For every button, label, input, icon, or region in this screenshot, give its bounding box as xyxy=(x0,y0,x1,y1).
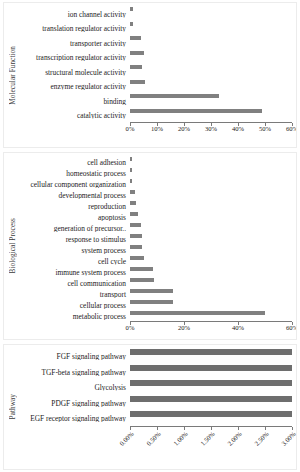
y-axis-title-label-biological-process: Biological Process xyxy=(9,218,17,274)
bar xyxy=(130,65,142,69)
bar xyxy=(130,349,292,355)
category-label: cell cycle xyxy=(20,258,130,265)
bar xyxy=(130,36,141,40)
tick-label: 10% xyxy=(151,125,163,132)
tick-label: 50% xyxy=(259,125,271,132)
tick-mark xyxy=(292,427,293,430)
bar-track xyxy=(130,278,292,289)
tick-mark xyxy=(238,427,239,430)
bar-track xyxy=(130,168,292,179)
tick-mark xyxy=(157,427,158,430)
tick-label: 40% xyxy=(232,125,244,132)
bar xyxy=(130,300,173,304)
bar-row: Glycolysis xyxy=(20,380,292,396)
bar-row: catalytic activity xyxy=(20,109,292,124)
bar-track xyxy=(130,36,292,51)
category-label: reproduction xyxy=(20,203,130,210)
category-label: cell adhesion xyxy=(20,159,130,166)
y-axis-title-pathway: Pathway xyxy=(6,345,20,469)
bar xyxy=(130,22,133,26)
tick-track: 0%10%20%30%40%50%60% xyxy=(130,123,292,135)
bar-track xyxy=(130,201,292,212)
bar xyxy=(130,109,262,113)
y-axis-title-biological-process: Biological Process xyxy=(6,153,20,339)
bar-track xyxy=(130,289,292,300)
bar-row: EGF receptor signaling pathway xyxy=(20,411,292,427)
bar-rows-biological-process: cell adhesionhomeostatic processcellular… xyxy=(20,157,292,322)
category-label: generation of precursor.. xyxy=(20,225,130,232)
bar xyxy=(130,157,132,161)
category-label: developmental process xyxy=(20,192,130,199)
tick-label: 1.50% xyxy=(199,430,216,447)
category-label: homeostatic process xyxy=(20,170,130,177)
y-axis-title-molecular-function: Molecular Function xyxy=(6,3,20,147)
bar-track xyxy=(130,22,292,37)
x-axis-ticks-pathway: 0.00%0.50%1.00%1.50%2.00%2.50%3.00% xyxy=(20,427,292,455)
category-label: ion channel activity xyxy=(20,11,130,18)
bar xyxy=(130,51,144,55)
plot-area-biological-process: cell adhesionhomeostatic processcellular… xyxy=(20,157,292,337)
plot-area-pathway: FGF signaling pathwayTGF-beta signaling … xyxy=(20,349,292,467)
category-label: transporter activity xyxy=(20,40,130,47)
bar xyxy=(130,311,265,315)
tick-label: 0.00% xyxy=(118,430,135,447)
tick-label: 60% xyxy=(286,125,297,132)
bar-track xyxy=(130,300,292,311)
tick-mark xyxy=(211,427,212,430)
tick-label: 2.00% xyxy=(226,430,243,447)
bar xyxy=(130,411,292,417)
bar-track xyxy=(130,256,292,267)
bar xyxy=(130,168,132,172)
bar-track xyxy=(130,245,292,256)
category-label: immune system process xyxy=(20,269,130,276)
bar-row: cellular component organization xyxy=(20,179,292,190)
tick-track: 0%20%40%60% xyxy=(130,322,292,334)
bar-rows-molecular-function: ion channel activitytranslation regulato… xyxy=(20,7,292,123)
bar xyxy=(130,201,136,205)
category-label: catalytic activity xyxy=(20,112,130,119)
bar-row: developmental process xyxy=(20,190,292,201)
tick-label: 60% xyxy=(286,324,297,331)
chart-panel-molecular-function: Molecular Function ion channel activityt… xyxy=(3,2,297,148)
bar-row: transcription regulator activity xyxy=(20,51,292,66)
category-label: enzyme regulator activity xyxy=(20,83,130,90)
bar-row: system process xyxy=(20,245,292,256)
bar xyxy=(130,94,219,98)
bar-row: cell adhesion xyxy=(20,157,292,168)
bar xyxy=(130,380,292,386)
bar-track xyxy=(130,396,292,412)
bar-row: translation regulator activity xyxy=(20,22,292,37)
bar-track xyxy=(130,179,292,190)
bar-row: PDGF signaling pathway xyxy=(20,396,292,412)
bar-track xyxy=(130,190,292,201)
chart-panel-pathway: Pathway FGF signaling pathwayTGF-beta si… xyxy=(3,344,297,470)
figure-container: Molecular Function ion channel activityt… xyxy=(0,0,300,472)
bar xyxy=(130,234,142,238)
bar xyxy=(130,212,138,216)
bar-row: ion channel activity xyxy=(20,7,292,22)
category-label: response to stimulus xyxy=(20,236,130,243)
tick-label: 20% xyxy=(178,125,190,132)
y-axis-title-label-pathway: Pathway xyxy=(9,394,17,419)
category-label: FGF signaling pathway xyxy=(20,353,130,360)
bar xyxy=(130,396,292,402)
chart-panel-biological-process: Biological Process cell adhesionhomeosta… xyxy=(3,152,297,340)
bar-track xyxy=(130,51,292,66)
bar-row: structural molecule activity xyxy=(20,65,292,80)
category-label: binding xyxy=(20,98,130,105)
bar-row: reproduction xyxy=(20,201,292,212)
bar-track xyxy=(130,349,292,365)
bar-track xyxy=(130,94,292,109)
x-axis-ticks-molecular-function: 0%10%20%30%40%50%60% xyxy=(20,123,292,135)
tick-mark xyxy=(130,427,131,430)
bar-track xyxy=(130,80,292,95)
plot-area-molecular-function: ion channel activitytranslation regulato… xyxy=(20,7,292,145)
tick-label: 30% xyxy=(205,125,217,132)
bar-row: homeostatic process xyxy=(20,168,292,179)
bar xyxy=(130,190,135,194)
category-label: transcription regulator activity xyxy=(20,54,130,61)
bar xyxy=(130,80,145,84)
category-label: Glycolysis xyxy=(20,384,130,391)
tick-label: 2.50% xyxy=(253,430,270,447)
bar-rows-pathway: FGF signaling pathwayTGF-beta signaling … xyxy=(20,349,292,427)
